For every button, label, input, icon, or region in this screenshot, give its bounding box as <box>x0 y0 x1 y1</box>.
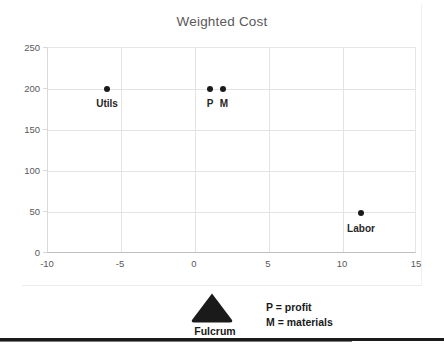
bottom-divider-shadow <box>0 341 352 342</box>
x-tick-label-minus5: -5 <box>100 259 140 269</box>
chart-frame-right-edge <box>421 4 422 286</box>
data-point-materials[interactable] <box>220 86 226 92</box>
gridline-x-10 <box>343 48 344 252</box>
gridline-y-100 <box>48 171 415 172</box>
gridline-x-0 <box>195 48 196 252</box>
legend: P = profit M = materials <box>266 300 333 330</box>
y-tick-label-200: 200 <box>8 84 40 94</box>
y-tick-label-100: 100 <box>8 166 40 176</box>
plot-area: Utils P M Labor <box>47 47 416 253</box>
y-tick-label-0: 0 <box>8 248 40 258</box>
x-tick-label-5: 5 <box>248 259 288 269</box>
slide-canvas: Weighted Cost 250 200 150 100 50 0 Utils… <box>0 0 444 353</box>
y-tick-label-250: 250 <box>8 43 40 53</box>
fulcrum-triangle-icon <box>190 292 234 323</box>
data-label-labor: Labor <box>336 223 386 234</box>
data-point-utils[interactable] <box>104 86 110 92</box>
chart-frame-bottom-edge <box>22 285 421 286</box>
x-tick-label-15: 15 <box>396 259 436 269</box>
data-point-profit[interactable] <box>207 86 213 92</box>
gridline-y-150 <box>48 130 415 131</box>
y-tick-label-150: 150 <box>8 125 40 135</box>
x-tick-label-10: 10 <box>322 259 362 269</box>
fulcrum-label: Fulcrum <box>176 325 254 337</box>
data-point-labor[interactable] <box>358 210 364 216</box>
gridline-x-5 <box>269 48 270 252</box>
x-tick-label-minus10: -10 <box>27 259 67 269</box>
data-label-utils: Utils <box>85 98 129 109</box>
y-tick-label-50: 50 <box>8 207 40 217</box>
x-tick-label-0: 0 <box>174 259 214 269</box>
chart-title: Weighted Cost <box>0 14 444 29</box>
data-label-materials: M <box>214 98 234 109</box>
legend-item-profit: P = profit <box>266 300 333 315</box>
legend-item-materials: M = materials <box>266 315 333 330</box>
gridline-x-minus5 <box>121 48 122 252</box>
